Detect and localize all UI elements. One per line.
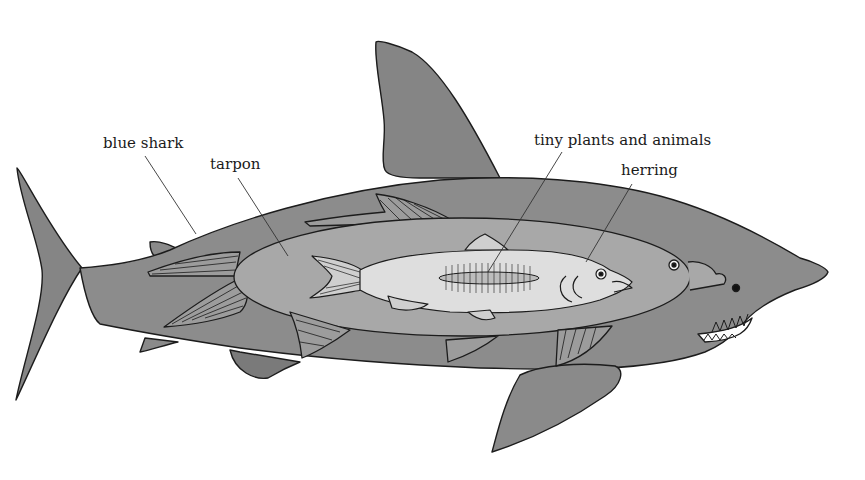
shark-tail: [16, 168, 82, 400]
shark-dorsal-fin: [376, 41, 500, 178]
label-tiny-plants-and-animals: tiny plants and animals: [534, 133, 711, 148]
shark-pectoral-fin: [492, 364, 621, 452]
shark-small-lower-fin: [140, 338, 178, 352]
nested-fish-illustration: [0, 0, 865, 480]
label-blue-shark: blue shark: [103, 136, 183, 151]
shark-nostril: [733, 285, 740, 292]
label-tarpon: tarpon: [210, 157, 260, 172]
leader-blue-shark: [145, 156, 196, 234]
label-herring: herring: [621, 163, 678, 178]
food-chain-diagram: blue shark tarpon tiny plants and animal…: [0, 0, 865, 480]
